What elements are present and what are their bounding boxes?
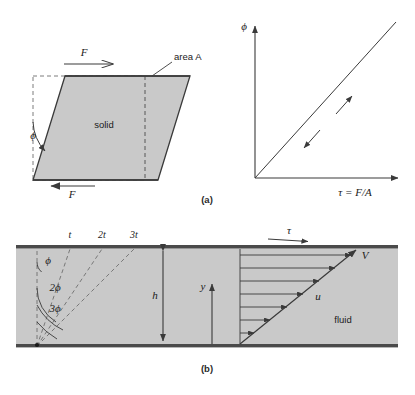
panel-a-group: ϕ F F solid area A (a) xyxy=(30,46,213,205)
graph-x-axis-label: τ = F/A xyxy=(338,186,372,198)
time-label-3t: 3t xyxy=(129,229,138,240)
time-label-t: t xyxy=(69,229,72,240)
graph-arrow-reverse xyxy=(304,130,320,148)
graph-data-line xyxy=(255,22,396,178)
angle-label-phi: ϕ xyxy=(45,254,51,266)
force-top-label: F xyxy=(80,46,88,58)
graph-y-axis-label: ϕ xyxy=(241,20,247,32)
y-axis-label: y xyxy=(200,280,206,292)
area-label: area A xyxy=(174,51,202,62)
bottom-wall xyxy=(16,344,398,347)
solid-label: solid xyxy=(94,119,114,130)
phi-tau-graph-group: ϕ τ = F/A xyxy=(241,20,398,198)
shear-stress-arrow xyxy=(268,239,308,242)
figure-svg: ϕ F F solid area A (a) ϕ τ = F/A xyxy=(0,0,415,395)
time-label-2t: 2t xyxy=(98,229,106,240)
angle-label-3phi: 3ϕ xyxy=(48,302,61,314)
phi-angle-label: ϕ xyxy=(30,129,36,141)
top-wall xyxy=(16,245,398,248)
graph-arrow-forward xyxy=(336,96,352,114)
panel-b-caption: (b) xyxy=(201,363,213,374)
panel-b-group: t 2t 3t ϕ 2ϕ 3ϕ h y τ xyxy=(16,224,398,374)
fluid-label: fluid xyxy=(334,314,351,325)
area-leader-line xyxy=(152,62,172,76)
force-bottom-label: F xyxy=(68,188,76,200)
angle-label-2phi: 2ϕ xyxy=(49,281,61,293)
shear-stress-label: τ xyxy=(287,224,292,236)
pivot-point xyxy=(35,343,39,347)
velocity-profile-label: u xyxy=(315,290,321,302)
height-label: h xyxy=(152,289,158,301)
panel-a-caption: (a) xyxy=(201,194,213,205)
figure-container: ϕ F F solid area A (a) ϕ τ = F/A xyxy=(0,0,415,395)
